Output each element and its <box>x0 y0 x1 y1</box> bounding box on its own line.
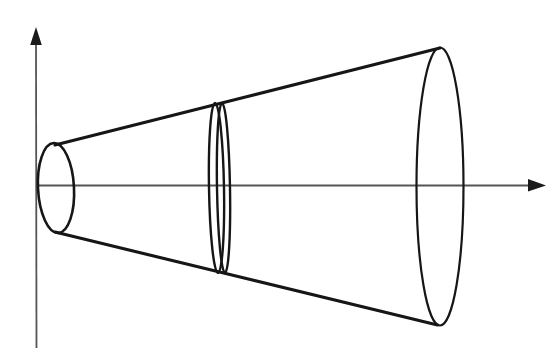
cone-diagram <box>0 0 560 363</box>
diagram-background <box>0 0 560 363</box>
figure-canvas <box>0 0 560 363</box>
y-axis-line <box>36 40 37 348</box>
